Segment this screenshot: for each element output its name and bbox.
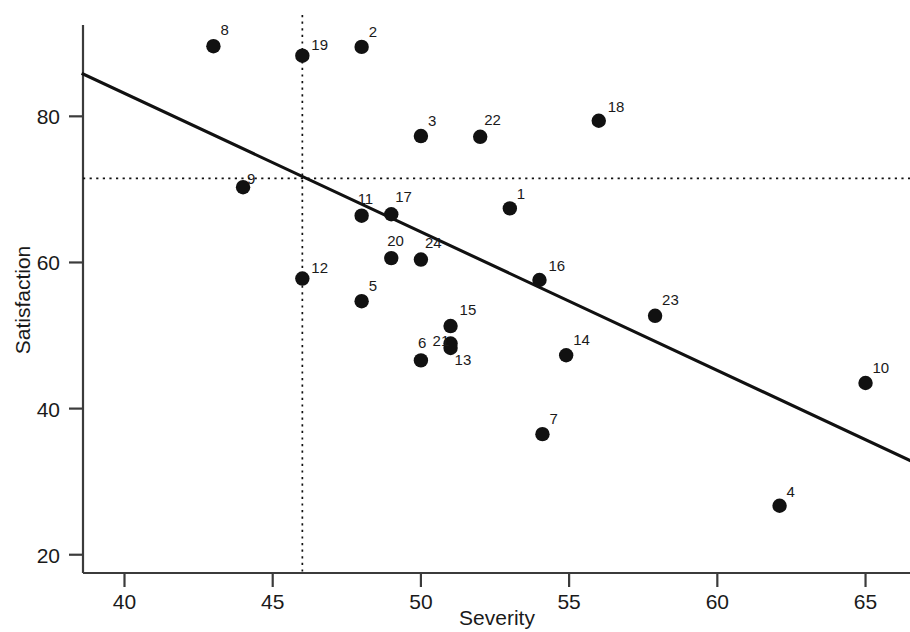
data-point-marker xyxy=(354,294,368,308)
data-point-group: 7 xyxy=(535,410,558,441)
data-point-label: 10 xyxy=(873,359,890,376)
data-point-group: 16 xyxy=(532,257,565,287)
data-point-marker xyxy=(384,251,398,265)
data-point-label: 19 xyxy=(311,36,328,53)
x-axis-title: Severity xyxy=(459,606,535,629)
data-point-label: 11 xyxy=(358,190,374,207)
data-point-marker xyxy=(559,348,573,362)
x-tick-label: 65 xyxy=(854,590,877,613)
data-point-marker xyxy=(414,353,428,367)
data-point-label: 14 xyxy=(573,331,590,348)
data-point-group: 6 xyxy=(414,334,428,367)
data-point-marker xyxy=(414,129,428,143)
data-point-label: 3 xyxy=(428,112,436,129)
data-point-marker xyxy=(648,309,662,323)
data-point-marker xyxy=(858,376,872,390)
data-point-group: 5 xyxy=(354,277,377,308)
data-point-marker xyxy=(473,130,487,144)
data-point-marker xyxy=(354,40,368,54)
regression-line xyxy=(83,74,910,461)
data-point-group: 1 xyxy=(503,185,526,215)
data-point-group: 23 xyxy=(648,291,679,323)
data-point-label: 18 xyxy=(608,98,625,115)
data-point-marker xyxy=(295,48,309,62)
x-tick-label: 50 xyxy=(409,590,432,613)
data-point-marker xyxy=(295,271,309,285)
data-point-label: 17 xyxy=(395,188,412,205)
data-point-label: 24 xyxy=(425,234,442,251)
x-tick-label: 60 xyxy=(706,590,729,613)
data-point-group: 14 xyxy=(559,331,590,362)
data-point-group: 20 xyxy=(384,232,404,265)
x-tick-label: 40 xyxy=(113,590,136,613)
data-point-group: 9 xyxy=(236,170,256,194)
data-point-marker xyxy=(354,209,368,223)
y-tick-label: 60 xyxy=(37,251,60,274)
data-point-label: 12 xyxy=(311,259,328,276)
data-point-label: 7 xyxy=(549,410,557,427)
data-point-label: 23 xyxy=(662,291,679,308)
data-point-label: 15 xyxy=(460,301,477,318)
data-point-label: 4 xyxy=(787,483,795,500)
data-point-marker xyxy=(772,499,786,513)
data-point-marker xyxy=(592,114,606,128)
data-point-marker xyxy=(535,427,549,441)
data-point-group: 11 xyxy=(354,190,373,223)
data-point-label: 6 xyxy=(418,334,426,351)
data-point-group: 21 xyxy=(433,332,458,351)
y-tick-label: 20 xyxy=(37,544,60,567)
data-point-label: 21 xyxy=(433,332,450,349)
data-point-group: 8 xyxy=(206,21,229,53)
data-point-marker xyxy=(414,252,428,266)
data-points-group: 123456789101112131415161718192021222324 xyxy=(206,21,889,513)
data-point-group: 15 xyxy=(443,301,476,333)
data-point-label: 22 xyxy=(484,111,501,128)
plot-canvas: 20406080 404550556065 123456789101112131… xyxy=(0,0,910,632)
data-point-group: 2 xyxy=(354,23,377,54)
scatter-plot-figure: 20406080 404550556065 123456789101112131… xyxy=(0,0,910,632)
data-point-group: 3 xyxy=(414,112,437,143)
y-tick-label: 40 xyxy=(37,398,60,421)
data-point-label: 20 xyxy=(387,232,404,249)
x-tick-label: 45 xyxy=(261,590,284,613)
x-tick-label: 55 xyxy=(557,590,580,613)
y-tick-group: 20406080 xyxy=(37,105,83,566)
data-point-marker xyxy=(503,201,517,215)
data-point-group: 17 xyxy=(384,188,412,221)
data-point-label: 8 xyxy=(220,21,228,38)
data-point-marker xyxy=(532,273,546,287)
data-point-label: 5 xyxy=(369,277,377,294)
data-point-group: 19 xyxy=(295,36,328,63)
data-point-label: 13 xyxy=(455,351,472,368)
data-point-label: 9 xyxy=(247,170,255,187)
y-axis-title: Satisfaction xyxy=(11,246,34,355)
data-point-group: 4 xyxy=(772,483,795,513)
data-point-group: 18 xyxy=(592,98,625,128)
data-point-group: 10 xyxy=(858,359,889,390)
data-point-label: 1 xyxy=(517,185,525,202)
data-point-group: 22 xyxy=(473,111,501,144)
data-point-group: 12 xyxy=(295,259,328,286)
data-point-label: 2 xyxy=(369,23,377,40)
data-point-marker xyxy=(206,39,220,53)
data-point-marker xyxy=(384,207,398,221)
y-tick-label: 80 xyxy=(37,105,60,128)
data-point-group: 24 xyxy=(414,234,442,267)
data-point-label: 16 xyxy=(548,257,565,274)
